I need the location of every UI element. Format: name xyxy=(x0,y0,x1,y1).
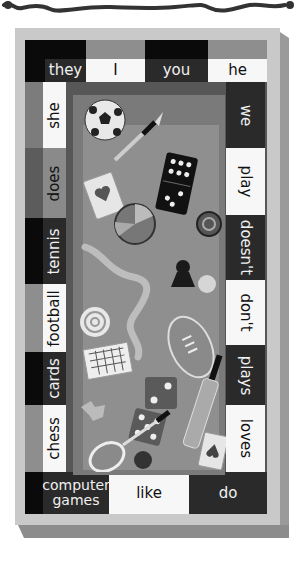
crossword-board-icon xyxy=(83,342,133,379)
target-disc-icon xyxy=(80,307,110,337)
word-tile-computer-games[interactable]: computer games xyxy=(43,472,109,514)
word-tile-football[interactable]: football xyxy=(43,284,66,352)
jigsaw-piece-icon xyxy=(81,401,105,421)
board-shadow-right xyxy=(280,32,289,530)
word-tile-dont[interactable]: don't xyxy=(226,280,265,345)
word-tile-he[interactable]: he xyxy=(208,59,267,82)
chess-pawn-icon xyxy=(171,260,195,287)
word-tile-we[interactable]: we xyxy=(226,82,265,148)
word-tile-you[interactable]: you xyxy=(145,59,208,82)
bottom-strip xyxy=(25,472,43,514)
left-strip-2 xyxy=(25,148,43,218)
word-tile-tennis[interactable]: tennis xyxy=(43,218,66,284)
domino-icon xyxy=(155,152,198,215)
word-tile-do[interactable]: do xyxy=(189,472,267,514)
left-strip-1 xyxy=(25,82,43,148)
left-strip-4 xyxy=(25,284,43,352)
game-objects-illustration xyxy=(73,82,226,472)
top-band-4 xyxy=(208,40,267,59)
ball-icon xyxy=(198,275,216,293)
checker-piece-icon xyxy=(197,212,221,236)
word-tile-play[interactable]: play xyxy=(226,148,265,215)
top-band-3 xyxy=(145,40,208,59)
snake-icon xyxy=(85,247,147,357)
board-shadow-bottom xyxy=(18,525,289,538)
top-band-2 xyxy=(86,40,145,59)
word-tile-cards[interactable]: cards xyxy=(43,352,66,405)
die-two-icon xyxy=(145,377,177,409)
wavy-border-decoration xyxy=(0,0,298,22)
soccer-ball-icon xyxy=(85,100,125,140)
left-strip-6 xyxy=(25,405,43,472)
word-tile-they[interactable]: they xyxy=(45,59,86,82)
word-grid: they I you he she does tennis football c… xyxy=(25,40,267,514)
word-tile-doesnt[interactable]: doesn't xyxy=(226,215,265,280)
word-tile-does[interactable]: does xyxy=(43,148,66,218)
trivial-pursuit-wheel-icon xyxy=(115,204,155,244)
playing-card-spade-icon xyxy=(198,432,226,470)
word-tile-chess[interactable]: chess xyxy=(43,405,66,472)
left-strip-3 xyxy=(25,218,43,284)
word-tile-i[interactable]: I xyxy=(86,59,145,82)
word-tile-plays[interactable]: plays xyxy=(226,345,265,405)
word-tile-like[interactable]: like xyxy=(109,472,189,514)
cricket-ball-icon xyxy=(134,451,152,469)
word-tile-she[interactable]: she xyxy=(43,82,66,148)
word-tile-loves[interactable]: loves xyxy=(226,405,265,472)
left-strip-5 xyxy=(25,352,43,405)
